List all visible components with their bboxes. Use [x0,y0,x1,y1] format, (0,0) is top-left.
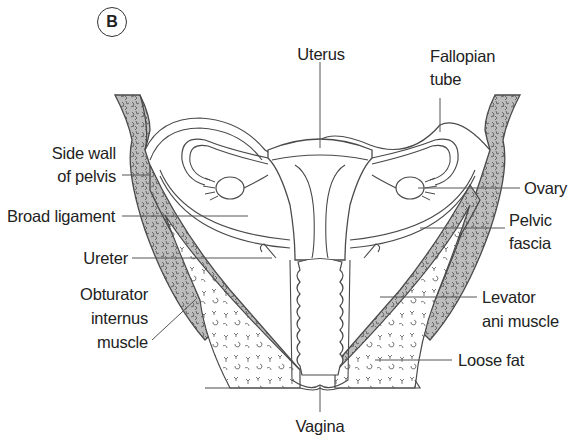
label-obturator-line2: internus [60,308,148,328]
label-side-wall-line2: of pelvis [20,166,116,186]
label-vagina: Vagina [288,416,352,436]
label-loose-fat: Loose fat [458,350,524,370]
label-levator-line2: ani muscle [482,311,559,331]
label-uterus: Uterus [290,44,352,64]
label-side-wall-line1: Side wall [20,143,116,163]
label-broad-ligament: Broad ligament [7,206,115,226]
label-obturator-line1: Obturator [60,284,148,304]
label-fallopian-tube-line2: tube [430,69,461,89]
label-ureter: Ureter [60,248,128,268]
leader-obturator [152,300,195,340]
left-ovary [203,175,268,200]
label-pelvic-fascia-line2: fascia [509,233,551,253]
pelvis-diagram: B Uterus Fallopian tube Side wall of pel… [0,0,569,444]
uterus [268,139,372,260]
label-ovary: Ovary [524,178,567,198]
label-levator-line1: Levator [482,287,536,307]
label-fallopian-tube-line1: Fallopian [430,46,495,66]
label-pelvic-fascia-line1: Pelvic [509,210,552,230]
label-obturator-line3: muscle [60,332,148,352]
panel-label-badge: B [97,7,127,37]
